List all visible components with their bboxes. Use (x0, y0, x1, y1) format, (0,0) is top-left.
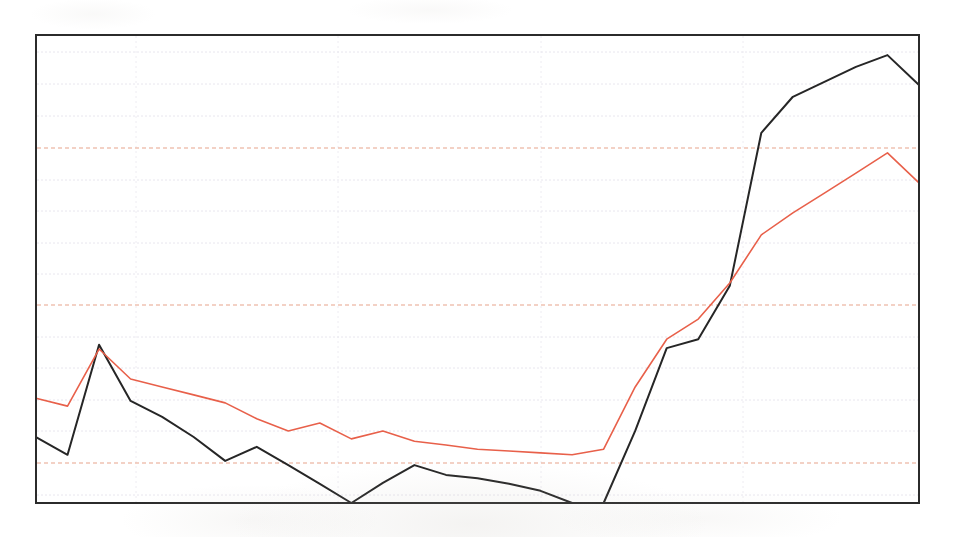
chart-figure (0, 0, 957, 537)
line-chart-svg (0, 0, 957, 537)
